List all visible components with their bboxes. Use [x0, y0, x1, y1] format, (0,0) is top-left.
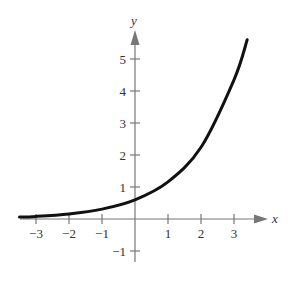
x-tick-label: −2: [62, 226, 76, 241]
y-tick-label: 2: [120, 148, 127, 163]
x-tick-label: 2: [198, 226, 205, 241]
exponential-chart: x y −3−2−1123−112345: [0, 0, 295, 282]
x-tick-label: 1: [165, 226, 172, 241]
y-tick-label: 5: [120, 52, 127, 67]
ticks: −3−2−1123−112345: [29, 52, 237, 259]
x-tick-label: −1: [95, 226, 109, 241]
x-tick-label: −3: [29, 226, 43, 241]
x-tick-label: 3: [231, 226, 238, 241]
x-axis-arrow-icon: [254, 215, 268, 224]
y-tick-label: 4: [120, 84, 127, 99]
y-axis-arrow-icon: [131, 30, 140, 45]
y-tick-label: 1: [120, 180, 127, 195]
y-tick-label: 3: [120, 116, 127, 131]
x-axis-label: x: [271, 211, 278, 226]
y-tick-label: −1: [112, 244, 126, 259]
data-series-curve: [20, 40, 248, 217]
axes: x y: [20, 13, 278, 262]
y-axis-label: y: [129, 13, 137, 28]
